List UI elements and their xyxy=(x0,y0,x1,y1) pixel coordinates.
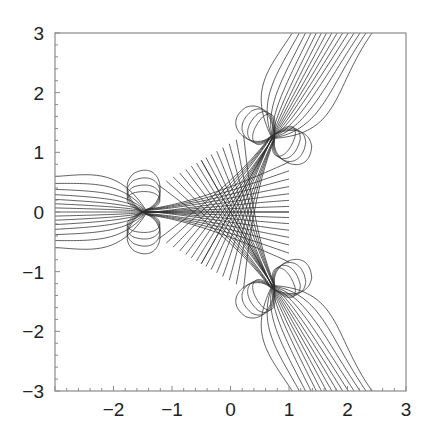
y-tick-label: −3 xyxy=(22,381,44,402)
chart-figure: −2−10123 3210−1−2−3 xyxy=(0,0,435,439)
y-tick-label: −2 xyxy=(22,321,44,342)
x-axis-tick-labels: −2−10123 xyxy=(103,399,412,420)
y-tick-label: 3 xyxy=(33,23,44,44)
x-tick-label: 1 xyxy=(284,399,295,420)
x-tick-label: −2 xyxy=(103,399,125,420)
x-tick-label: 0 xyxy=(225,399,236,420)
x-tick-label: 3 xyxy=(401,399,412,420)
y-tick-label: 1 xyxy=(33,142,44,163)
x-tick-label: 2 xyxy=(342,399,353,420)
y-axis-tick-labels: 3210−1−2−3 xyxy=(22,23,44,402)
y-tick-label: −1 xyxy=(22,262,44,283)
y-tick-label: 0 xyxy=(33,202,44,223)
x-tick-label: −1 xyxy=(161,399,183,420)
y-tick-label: 2 xyxy=(33,83,44,104)
curve-family xyxy=(2,0,375,432)
